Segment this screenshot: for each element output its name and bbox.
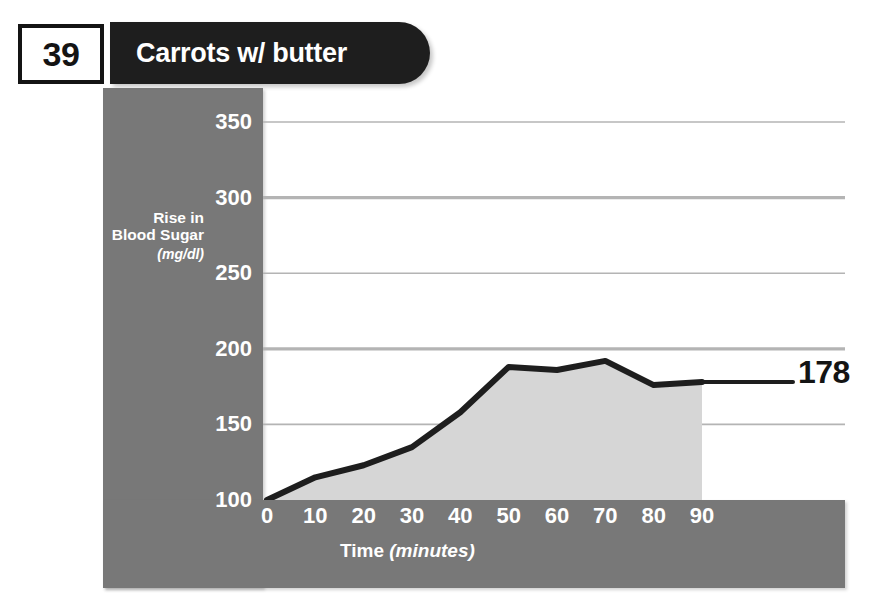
x-tick-label: 80 [634,505,674,527]
x-tick-label: 50 [489,505,529,527]
x-axis-title-text: Time [340,540,384,561]
x-tick-label: 30 [392,505,432,527]
y-tick-label: 200 [190,338,252,360]
y-tick-label: 350 [190,111,252,133]
plot-region [263,88,845,500]
x-tick-label: 20 [344,505,384,527]
x-tick-label: 90 [682,505,722,527]
y-axis-units: (mg/dl) [108,247,204,262]
blood-sugar-area-chart [263,88,845,500]
y-tick-label: 150 [190,413,252,435]
y-tick-label: 100 [190,489,252,511]
x-axis-units: (minutes) [389,540,475,561]
y-axis-title-text: Rise in Blood Sugar [112,209,204,243]
x-tick-label: 40 [440,505,480,527]
final-value-annotation: 178 [798,356,850,388]
y-tick-label: 300 [190,187,252,209]
chart-body: Rise in Blood Sugar (mg/dl) 100150200250… [0,0,875,608]
x-tick-label: 10 [295,505,335,527]
y-tick-label: 250 [190,262,252,284]
chart-page: 39 Carrots w/ butter Rise in Blood Sugar… [0,0,875,608]
area-fill [267,361,702,500]
x-tick-label: 60 [537,505,577,527]
y-axis-title: Rise in Blood Sugar (mg/dl) [108,210,204,263]
x-axis-title: Time (minutes) [340,540,475,562]
x-tick-label: 0 [247,505,287,527]
x-tick-label: 70 [585,505,625,527]
